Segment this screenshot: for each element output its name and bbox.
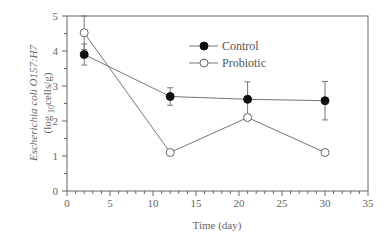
y-tick-label: 0 [53,185,59,197]
axes: 05101520253035012345 [53,10,375,209]
legend-label: Control [222,39,259,53]
data-point [244,95,252,103]
legend-marker [200,42,208,50]
y-tick-label: 3 [53,80,59,92]
data-point [321,97,329,105]
line-chart: 05101520253035012345 ControlProbiotic Ti… [0,0,390,240]
x-tick-label: 0 [64,197,70,209]
series-layer [80,16,329,157]
x-tick-label: 30 [320,197,332,209]
x-tick-label: 25 [277,197,289,209]
data-point [166,149,174,157]
x-tick-label: 20 [234,197,246,209]
legend-marker [200,59,208,67]
series-control [80,44,329,120]
y-tick-label: 5 [53,10,59,22]
y-axis-label: Escherichia coli O157:H7 (log 10cells/g) [27,44,56,162]
y-axis-label-line1: Escherichia coli O157:H7 [27,44,39,162]
x-tick-label: 5 [107,197,113,209]
y-tick-label: 1 [53,150,59,162]
data-point [80,29,88,37]
data-point [80,51,88,59]
x-axis-label: Time (day) [193,219,242,232]
y-tick-label: 2 [53,115,59,127]
legend-label: Probiotic [222,56,266,70]
x-tick-label: 35 [363,197,375,209]
x-tick-label: 10 [148,197,160,209]
legend: ControlProbiotic [189,39,266,70]
data-point [244,114,252,122]
series-probiotic [80,16,329,157]
data-point [321,149,329,157]
data-point [166,93,174,101]
y-tick-label: 4 [53,45,59,57]
x-tick-label: 15 [191,197,203,209]
